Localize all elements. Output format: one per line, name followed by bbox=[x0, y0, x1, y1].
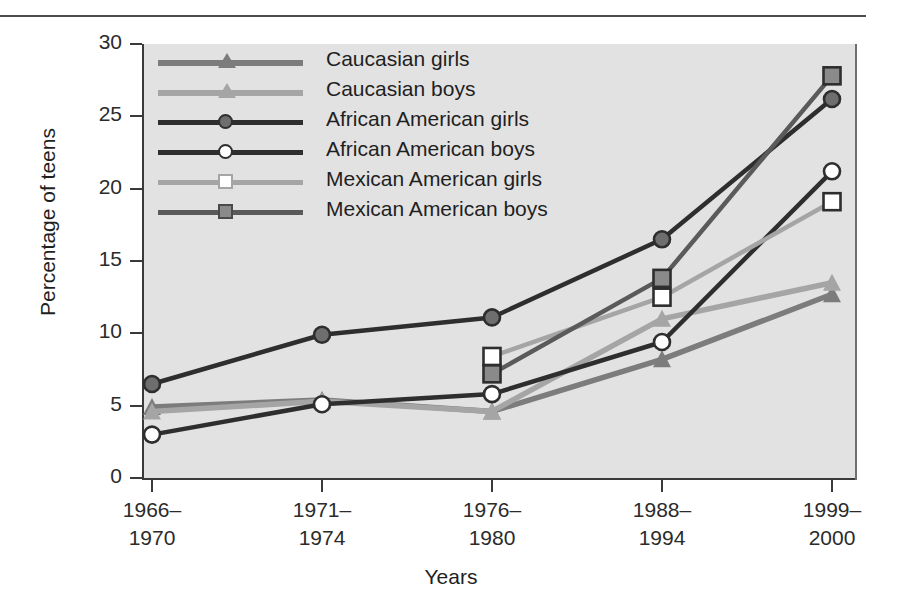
data-point-marker bbox=[144, 427, 160, 443]
data-point-marker bbox=[314, 327, 330, 343]
data-point-marker bbox=[654, 289, 671, 306]
data-point-marker bbox=[484, 348, 501, 365]
chart-figure: 051015202530 Percentage of teens 1966–19… bbox=[0, 0, 902, 613]
data-point-marker bbox=[824, 67, 841, 84]
legend-marker-icon bbox=[218, 174, 233, 189]
legend-label: Caucasian boys bbox=[326, 77, 475, 101]
legend-label: Mexican American girls bbox=[326, 167, 542, 191]
data-point-marker bbox=[654, 270, 671, 287]
legend-marker-icon bbox=[218, 144, 233, 159]
data-point-marker bbox=[824, 193, 841, 210]
legend-label: Caucasian girls bbox=[326, 47, 470, 71]
data-point-marker bbox=[824, 91, 840, 107]
data-point-marker bbox=[654, 231, 670, 247]
legend-marker-icon bbox=[218, 53, 236, 68]
data-point-marker bbox=[654, 334, 670, 350]
data-point-marker bbox=[484, 309, 500, 325]
legend-label: Mexican American boys bbox=[326, 197, 548, 221]
data-point-marker bbox=[824, 163, 840, 179]
legend-label: African American boys bbox=[326, 137, 535, 161]
legend-marker-icon bbox=[218, 114, 233, 129]
legend-label: African American girls bbox=[326, 107, 529, 131]
data-point-marker bbox=[314, 396, 330, 412]
legend-marker-icon bbox=[218, 204, 233, 219]
data-point-marker bbox=[484, 365, 501, 382]
legend-marker-icon bbox=[218, 83, 236, 98]
data-point-marker bbox=[484, 386, 500, 402]
data-point-marker bbox=[144, 376, 160, 392]
